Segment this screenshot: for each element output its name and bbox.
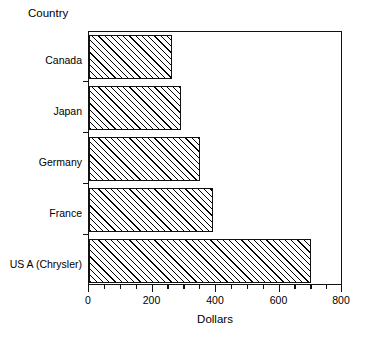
x-axis-minor-tick: [120, 285, 121, 289]
x-axis-minor-tick: [136, 285, 137, 289]
x-axis-minor-tick: [167, 285, 168, 289]
y-axis-tick-label-japan: Japan: [0, 105, 82, 117]
bar-canada: [89, 35, 172, 79]
bar-chart: Country Canada Japan Germany France US A…: [0, 0, 373, 340]
bar-japan: [89, 86, 181, 130]
y-axis-tick: [83, 234, 88, 235]
bar-germany: [89, 137, 200, 181]
x-axis-tick-400: [215, 285, 216, 292]
x-axis-minor-tick: [231, 285, 232, 289]
x-axis-minor-tick: [263, 285, 264, 289]
x-axis-tick-200: [152, 285, 153, 292]
x-axis-tick-label-0: 0: [68, 294, 108, 306]
y-axis-tick: [83, 81, 88, 82]
y-axis-tick-label-canada: Canada: [0, 54, 82, 66]
x-axis-tick-label-600: 600: [259, 294, 299, 306]
y-axis-tick: [83, 132, 88, 133]
x-axis-minor-tick: [183, 285, 184, 289]
y-axis-tick-label-germany: Germany: [0, 156, 82, 168]
x-axis-tick-800: [341, 285, 342, 292]
x-axis-minor-tick: [294, 285, 295, 289]
x-axis-minor-tick: [104, 285, 105, 289]
y-axis-title: Country: [28, 6, 68, 20]
x-axis-tick-label-200: 200: [132, 294, 172, 306]
bar-france: [89, 188, 213, 232]
x-axis-tick-0: [88, 285, 89, 292]
x-axis-minor-tick: [310, 285, 311, 289]
x-axis-title: Dollars: [88, 312, 342, 326]
x-axis-tick-600: [279, 285, 280, 292]
x-axis-minor-tick: [247, 285, 248, 289]
x-axis-minor-tick: [326, 285, 327, 289]
x-axis-tick-label-800: 800: [321, 294, 361, 306]
y-axis-tick-label-france: France: [0, 207, 82, 219]
plot-area: [88, 31, 342, 285]
bar-usa-chrysler: [89, 239, 311, 283]
x-axis-tick-label-400: 400: [195, 294, 235, 306]
y-axis-tick-label-usa-chrysler: US A (Chrysler): [0, 258, 82, 270]
y-axis-tick: [83, 183, 88, 184]
x-axis-minor-tick: [199, 285, 200, 289]
